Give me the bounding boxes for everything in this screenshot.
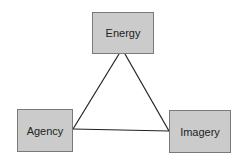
- edge-agency-imagery: [73, 129, 169, 131]
- node-label: Imagery: [180, 126, 220, 138]
- node-imagery: Imagery: [169, 110, 231, 153]
- node-label: Energy: [106, 27, 141, 39]
- edge-energy-imagery: [125, 54, 169, 131]
- node-energy: Energy: [92, 12, 154, 54]
- edge-energy-agency: [73, 54, 119, 129]
- node-label: Agency: [27, 125, 64, 137]
- node-agency: Agency: [17, 109, 73, 152]
